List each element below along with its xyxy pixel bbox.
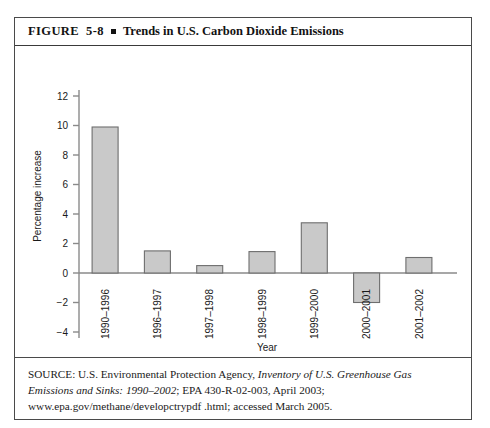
bar <box>301 223 327 273</box>
x-axis-category-label: 1997–1998 <box>204 289 215 339</box>
bar <box>406 258 432 274</box>
bar-chart: −4−2024681012Percentage increase1990–199… <box>15 46 473 357</box>
chart-plot-area: −4−2024681012Percentage increase1990–199… <box>15 46 471 357</box>
y-axis-tick-label: 4 <box>62 209 68 220</box>
y-axis-tick-label: 0 <box>62 268 68 279</box>
bar <box>144 251 170 273</box>
x-axis-category-label: 2001–2002 <box>414 289 425 339</box>
y-axis-tick-label: 6 <box>62 179 68 190</box>
x-axis-category-label: 2000–2001 <box>361 289 372 339</box>
y-axis-tick-label: −4 <box>57 327 69 338</box>
figure-number: FIGURE 5-8 <box>28 24 104 39</box>
x-axis-title: Year <box>257 342 278 353</box>
y-axis-title: Percentage increase <box>32 150 43 242</box>
y-axis-tick-label: 8 <box>62 150 68 161</box>
filled-square-bullet-icon <box>111 29 116 34</box>
x-axis-category-label: 1999–2000 <box>309 289 320 339</box>
bar <box>197 266 223 273</box>
source-prefix: SOURCE: U.S. Environmental Protection Ag… <box>28 368 258 380</box>
x-axis-category-label: 1998–1999 <box>257 289 268 339</box>
y-axis-tick-label: 2 <box>62 238 68 249</box>
x-axis-category-label: 1996–1997 <box>152 289 163 339</box>
bar <box>92 127 118 273</box>
source-note: SOURCE: U.S. Environmental Protection Ag… <box>15 357 471 415</box>
y-axis-tick-label: 10 <box>57 120 69 131</box>
y-axis-tick-label: −2 <box>57 297 69 308</box>
figure-title-bar: FIGURE 5-8 Trends in U.S. Carbon Dioxide… <box>15 18 471 46</box>
figure-title: Trends in U.S. Carbon Dioxide Emissions <box>123 24 344 39</box>
bar <box>249 252 275 273</box>
y-axis-tick-label: 12 <box>57 91 69 102</box>
figure-frame: FIGURE 5-8 Trends in U.S. Carbon Dioxide… <box>14 17 472 420</box>
x-axis-category-label: 1990–1996 <box>100 289 111 339</box>
